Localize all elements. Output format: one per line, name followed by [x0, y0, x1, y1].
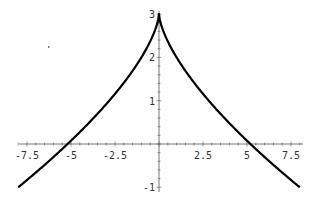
x-tick-label: 5 — [244, 150, 250, 161]
y-tick-label: 1 — [149, 96, 155, 107]
y-tick-label: -1 — [143, 182, 155, 193]
x-tick-label: -5 — [65, 150, 77, 161]
y-tick-label: 2 — [149, 52, 155, 63]
stray-speck — [48, 46, 50, 48]
plot-area: -7.5-5-2.52.557.5321-1 — [0, 0, 316, 201]
axes — [18, 11, 303, 192]
x-tick-label: -2.5 — [103, 150, 127, 161]
x-tick-label: 2.5 — [194, 150, 212, 161]
x-tick-label: -7.5 — [15, 150, 39, 161]
tick-labels: -7.5-5-2.52.557.5321-1 — [15, 9, 300, 193]
x-tick-label: 7.5 — [282, 150, 300, 161]
y-tick-label: 3 — [149, 9, 155, 20]
